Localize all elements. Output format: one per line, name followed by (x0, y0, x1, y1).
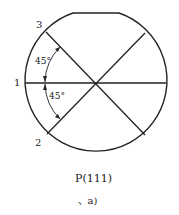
angle-label-upper: 45° (35, 57, 51, 66)
arrowhead-upper-bottom (43, 76, 47, 82)
wafer-outline (25, 13, 167, 151)
arrowhead-lower-top (43, 84, 47, 90)
angle-label-lower: 45° (49, 92, 65, 101)
label-2: 2 (35, 138, 41, 148)
caption-sub: 、a) (0, 192, 177, 207)
label-1: 1 (14, 78, 20, 88)
label-3: 3 (36, 20, 42, 30)
caption-title: P(111) (4, 172, 179, 185)
angle-arc-lower (45, 84, 60, 119)
